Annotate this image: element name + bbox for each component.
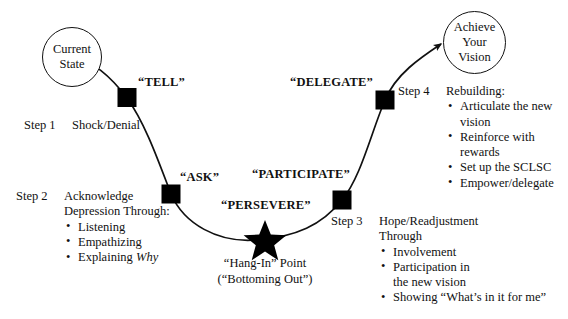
hang-in-caption-line-2: (“Bottoming Out”) (203, 272, 327, 288)
step-3-bullet-2-continued: the new vision (379, 275, 546, 290)
milestone-square-delegate (376, 91, 395, 110)
label-ask: “ASK” (180, 170, 219, 185)
current-state-line-2: State (60, 57, 85, 72)
step-3-bullet-1: Involvement (379, 245, 546, 260)
step-2-bullet-1: Listening (64, 220, 170, 235)
step-1-heading: Shock/Denial (72, 118, 140, 133)
step-3-heading: Hope/Readjustment (379, 214, 546, 229)
step-1-tag: Step 1 (24, 118, 72, 133)
label-delegate: “DELEGATE” (290, 75, 373, 90)
step-4-bullet-2-continued: rewards (446, 145, 554, 160)
step-2-heading: Acknowledge (64, 189, 170, 204)
label-tell: “TELL” (138, 75, 185, 90)
hang-in-point-star (244, 220, 287, 260)
step-3-tag: Step 3 (331, 214, 379, 229)
step-4-block: Step 4 Rebuilding: Articulate the new vi… (398, 84, 554, 191)
hang-in-caption-line-1: “Hang-In” Point (203, 256, 327, 272)
vision-line-3: Vision (458, 50, 491, 65)
step-4-heading: Rebuilding: (446, 84, 554, 99)
step-3-block: Step 3 Hope/Readjustment Through Involve… (331, 214, 546, 306)
milestone-square-participate (333, 191, 352, 210)
hang-in-point-caption: “Hang-In” Point (“Bottoming Out”) (203, 256, 327, 287)
step-4-bullet-1: Articulate the new (446, 99, 554, 114)
step-4-bullet-2: Reinforce with (446, 130, 554, 145)
step-3-bullet-2: Participation in (379, 260, 546, 275)
step-2-bullet-3-text: Explaining (78, 250, 136, 264)
current-state-circle: Current State (42, 27, 102, 87)
step-2-subheading: Depression Through: (64, 204, 170, 219)
step-4-bullet-1-continued: vision (446, 115, 554, 130)
step-3-subheading: Through (379, 229, 546, 244)
step-1-block: Step 1 Shock/Denial (24, 118, 140, 133)
change-curve-diagram: Current State Achieve Your Vision “TELL”… (0, 0, 568, 319)
label-persevere: “PERSEVERE” (221, 198, 311, 213)
vision-line-2: Your (462, 35, 486, 50)
step-2-tag: Step 2 (16, 189, 64, 204)
step-4-bullet-3: Set up the SCLSC (446, 160, 554, 175)
achieve-your-vision-circle: Achieve Your Vision (443, 11, 506, 74)
step-2-bullet-3: Explaining Why (64, 250, 170, 265)
label-participate: “PARTICIPATE” (252, 167, 350, 182)
step-4-bullet-4: Empower/delegate (446, 176, 554, 191)
vision-line-1: Achieve (454, 20, 496, 35)
milestone-square-tell (118, 88, 137, 107)
step-4-tag: Step 4 (398, 84, 446, 99)
current-state-line-1: Current (53, 42, 91, 57)
step-3-bullet-3: Showing “What’s in it for me” (379, 290, 546, 305)
step-2-bullet-3-emphasis: Why (136, 250, 158, 264)
step-2-block: Step 2 Acknowledge Depression Through: L… (16, 189, 170, 265)
step-2-bullet-2: Empathizing (64, 235, 170, 250)
